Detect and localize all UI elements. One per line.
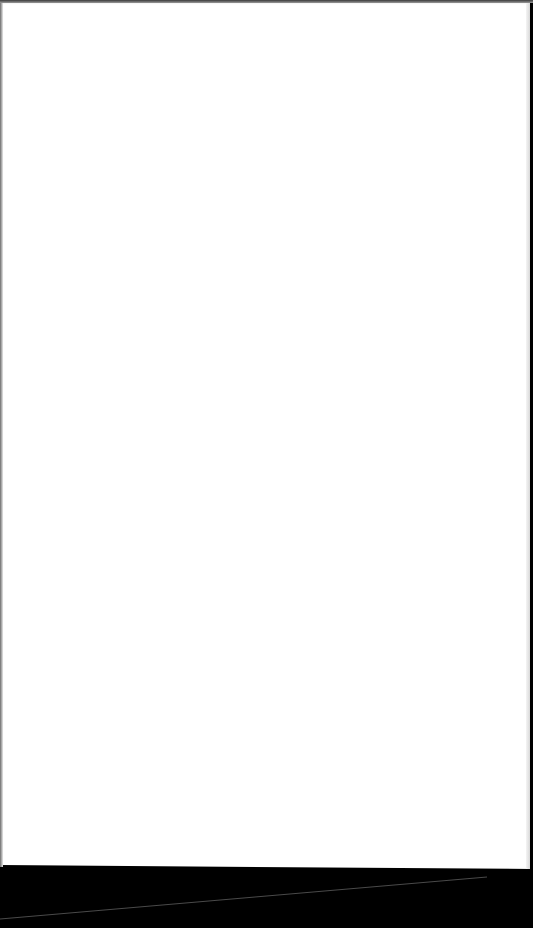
blank-paper-sheet xyxy=(0,3,530,869)
paper-left-edge xyxy=(0,3,3,867)
photo-scene xyxy=(0,0,533,928)
paper-right-edge xyxy=(526,3,530,869)
paper-top-shadow xyxy=(0,0,533,3)
